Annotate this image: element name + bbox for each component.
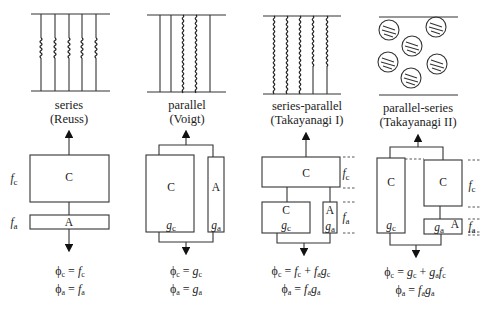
box-label-c-right: C <box>439 176 447 188</box>
series-parallel-title: series-parallel <box>272 99 343 113</box>
diagram-stage: series (Reuss) C A fc fa parallel (Voigt… <box>0 0 487 310</box>
series-subtitle: (Reuss) <box>50 112 88 126</box>
fc-label: fc <box>10 172 17 187</box>
box-label-a: A <box>65 216 74 228</box>
parallel-schematic <box>147 15 226 93</box>
crystalline-box-top <box>262 157 340 187</box>
series-parallel-eq-phi-a: ϕa = faga <box>281 282 321 297</box>
series-schematic <box>31 14 110 91</box>
parallel-series-schematic <box>378 17 458 95</box>
box-label-a: A <box>326 204 335 216</box>
series-block-diagram: C A fc fa <box>10 134 109 248</box>
box-label-c-top: C <box>302 167 310 179</box>
box-label-c: C <box>65 171 73 183</box>
fa-label: fa <box>10 216 17 231</box>
equations: ϕc = fc ϕa = fa ϕc = gc ϕa = ga ϕc = fc … <box>55 264 446 298</box>
series-parallel-block-diagram: C C A gc ga fc fa <box>262 136 356 252</box>
series-fibers <box>40 14 97 91</box>
parallel-block-diagram: C A gc ga <box>146 134 224 251</box>
series-parallel-schematic <box>263 16 341 94</box>
parallel-series-eq-phi-a: ϕa = faga <box>395 283 435 298</box>
series-parallel-subtitle: (Takayanagi I) <box>270 113 343 127</box>
fc-label: fc <box>342 167 349 182</box>
box-label-c: C <box>167 181 175 193</box>
parallel-series-title: parallel-series <box>383 101 453 115</box>
parallel-eq-phi-c: ϕc = gc <box>170 264 203 279</box>
fa-label: fa <box>342 211 349 226</box>
box-label-a: A <box>451 218 460 230</box>
dispersed-particles <box>378 17 447 88</box>
series-parallel-eq-phi-c: ϕc = fc + fagc <box>272 264 331 279</box>
parallel-series-eq-phi-c: ϕc = gc + gafc <box>384 265 446 280</box>
fc-label: fc <box>468 179 475 194</box>
parallel-series-subtitle: (Takayanagi II) <box>379 115 456 129</box>
parallel-title: parallel <box>168 98 206 112</box>
box-label-a: A <box>212 181 221 193</box>
series-eq-phi-a: ϕa = fa <box>55 282 85 297</box>
fa-label: fa <box>468 220 475 235</box>
series-title: series <box>55 98 84 112</box>
box-label-c-bottom: C <box>282 204 290 216</box>
model-diagram: series (Reuss) C A fc fa parallel (Voigt… <box>0 0 487 310</box>
parallel-series-block-diagram: C C A gc ga fc fa <box>377 138 481 254</box>
parallel-eq-phi-a: ϕa = ga <box>170 282 203 297</box>
parallel-subtitle: (Voigt) <box>169 112 204 126</box>
box-label-c-left: C <box>387 176 395 188</box>
series-eq-phi-c: ϕc = fc <box>55 264 85 279</box>
